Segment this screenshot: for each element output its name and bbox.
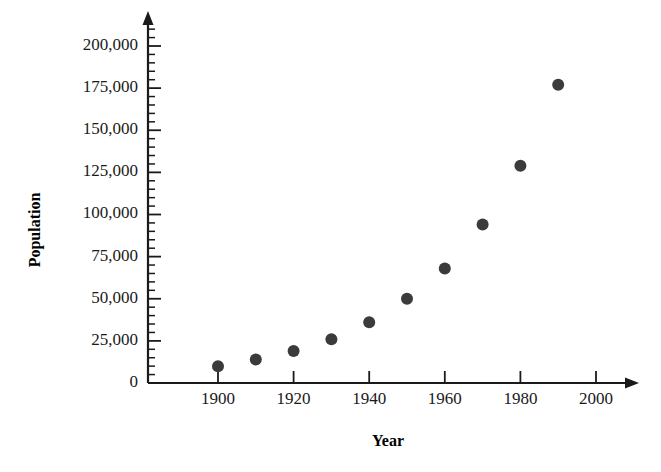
- x-axis-tick-label: 1920: [277, 389, 311, 408]
- data-point: [552, 79, 564, 91]
- x-axis-tick-labels: 190019201940196019802000: [201, 389, 613, 408]
- x-axis-tick-label: 1960: [428, 389, 462, 408]
- y-axis-title: Population: [26, 193, 44, 268]
- y-axis-tick-labels: 025,00050,00075,000100,000125,000150,000…: [83, 35, 138, 391]
- y-axis-tick-label: 25,000: [91, 330, 138, 349]
- data-point: [477, 219, 489, 231]
- y-axis-ticks: [148, 29, 161, 383]
- data-point: [514, 160, 526, 172]
- y-axis-tick-label: 50,000: [91, 288, 138, 307]
- y-axis-tick-label: 100,000: [83, 203, 138, 222]
- chart-canvas: 025,00050,00075,000100,000125,000150,000…: [0, 0, 661, 472]
- y-axis-arrow-icon: [143, 11, 154, 25]
- x-axis-title: Year: [372, 432, 404, 449]
- data-point: [401, 293, 413, 305]
- y-axis-tick-label: 150,000: [83, 119, 138, 138]
- data-point: [325, 333, 337, 345]
- data-points-group: [212, 79, 564, 372]
- data-point: [250, 353, 262, 365]
- x-axis-tick-label: 1900: [201, 389, 235, 408]
- data-point: [363, 316, 375, 328]
- y-axis-tick-label: 75,000: [91, 246, 138, 265]
- x-axis-tick-label: 2000: [579, 389, 613, 408]
- x-axis-arrow-icon: [625, 378, 639, 389]
- y-axis-tick-label: 200,000: [83, 35, 138, 54]
- population-scatter-chart: 025,00050,00075,000100,000125,000150,000…: [0, 0, 661, 472]
- axes-group: [143, 11, 640, 389]
- y-axis-tick-label: 125,000: [83, 161, 138, 180]
- x-axis-tick-label: 1980: [503, 389, 537, 408]
- data-point: [288, 345, 300, 357]
- y-axis-tick-label: 175,000: [83, 77, 138, 96]
- x-axis-tick-label: 1940: [352, 389, 386, 408]
- y-axis-tick-label: 0: [130, 372, 139, 391]
- data-point: [439, 262, 451, 274]
- data-point: [212, 360, 224, 372]
- x-axis-ticks: [218, 371, 596, 383]
